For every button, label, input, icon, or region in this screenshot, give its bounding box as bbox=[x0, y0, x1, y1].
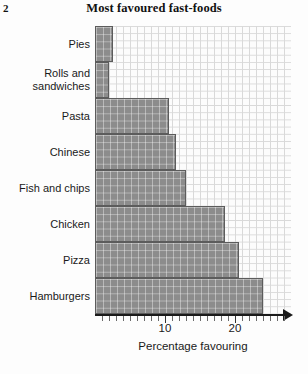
x-axis-minor-tick bbox=[123, 316, 124, 321]
x-axis-minor-tick bbox=[179, 316, 180, 321]
x-axis-minor-tick bbox=[193, 316, 194, 321]
x-axis-minor-tick bbox=[214, 316, 215, 321]
category-label-line: Pies bbox=[0, 38, 90, 51]
x-axis-minor-tick bbox=[172, 316, 173, 321]
category-label: Hamburgers bbox=[0, 290, 90, 303]
category-label-line: Chicken bbox=[0, 218, 90, 231]
category-label: Pies bbox=[0, 38, 90, 51]
category-label-line: sandwiches bbox=[0, 80, 90, 93]
x-axis-minor-tick bbox=[151, 316, 152, 321]
x-axis-minor-tick bbox=[270, 316, 271, 321]
category-label: Fish and chips bbox=[0, 182, 90, 195]
plot-area bbox=[95, 26, 291, 314]
bar bbox=[95, 206, 225, 242]
x-axis-minor-tick bbox=[130, 316, 131, 321]
x-axis-minor-tick bbox=[284, 316, 285, 321]
x-axis-title: Percentage favouring bbox=[95, 340, 291, 352]
category-label-line: Rolls and bbox=[0, 67, 90, 80]
bar-row bbox=[95, 98, 291, 134]
bar bbox=[95, 278, 263, 314]
bar bbox=[95, 170, 186, 206]
category-label: Pizza bbox=[0, 254, 90, 267]
category-label-line: Pasta bbox=[0, 110, 90, 123]
x-axis-minor-tick bbox=[249, 316, 250, 321]
x-axis-minor-tick bbox=[207, 316, 208, 321]
category-label-line: Fish and chips bbox=[0, 182, 90, 195]
x-axis-minor-tick bbox=[137, 316, 138, 321]
bar bbox=[95, 98, 169, 134]
category-label: Rolls andsandwiches bbox=[0, 67, 90, 93]
x-axis-minor-tick bbox=[277, 316, 278, 321]
bar-row bbox=[95, 170, 291, 206]
category-label: Pasta bbox=[0, 110, 90, 123]
bar-row bbox=[95, 62, 291, 98]
x-axis-minor-tick bbox=[221, 316, 222, 321]
bar-row bbox=[95, 278, 291, 314]
bar bbox=[95, 242, 239, 278]
x-axis-minor-tick bbox=[263, 316, 264, 321]
category-label-line: Hamburgers bbox=[0, 290, 90, 303]
x-axis-minor-tick bbox=[109, 316, 110, 321]
bar bbox=[95, 26, 113, 62]
x-axis-minor-tick bbox=[158, 316, 159, 321]
x-axis-minor-tick bbox=[186, 316, 187, 321]
x-axis-tick-label: 10 bbox=[150, 322, 180, 334]
chart-title: Most favoured fast-foods bbox=[0, 1, 308, 16]
x-axis-minor-tick bbox=[144, 316, 145, 321]
category-label: Chicken bbox=[0, 218, 90, 231]
bar bbox=[95, 134, 176, 170]
x-axis-minor-tick bbox=[256, 316, 257, 321]
bar-row bbox=[95, 206, 291, 242]
bar bbox=[95, 62, 109, 98]
category-label-line: Chinese bbox=[0, 146, 90, 159]
bar-row bbox=[95, 242, 291, 278]
category-label-line: Pizza bbox=[0, 254, 90, 267]
x-axis-minor-tick bbox=[116, 316, 117, 321]
x-axis-minor-tick bbox=[242, 316, 243, 321]
x-axis-minor-tick bbox=[102, 316, 103, 321]
x-axis-tick-label: 20 bbox=[220, 322, 250, 334]
bar-row bbox=[95, 134, 291, 170]
category-label: Chinese bbox=[0, 146, 90, 159]
x-axis-minor-tick bbox=[228, 316, 229, 321]
x-axis-minor-tick bbox=[200, 316, 201, 321]
bar-row bbox=[95, 26, 291, 62]
